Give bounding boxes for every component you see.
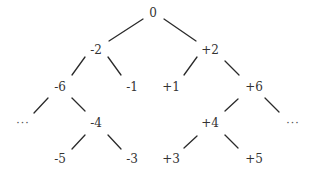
- tree-edge: [225, 99, 238, 111]
- tree-node: +1: [162, 81, 180, 93]
- tree-edge: [34, 98, 48, 113]
- tree-edge: [72, 57, 85, 75]
- tree-edge: [184, 57, 197, 75]
- tree-node: +3: [162, 153, 180, 165]
- tree-edges: [0, 0, 311, 174]
- tree-edge: [184, 136, 197, 148]
- tree-edge: [225, 135, 238, 148]
- tree-edge: [164, 19, 196, 41]
- tree-node: -3: [126, 153, 138, 165]
- tree-node: -2: [90, 44, 102, 56]
- tree-edge: [225, 61, 239, 75]
- tree-edge: [265, 98, 279, 112]
- tree-node: +4: [201, 117, 219, 129]
- tree-edge: [108, 135, 121, 149]
- tree-node: 0: [149, 7, 157, 19]
- tree-node: +6: [245, 81, 263, 93]
- tree-node: +5: [245, 153, 263, 165]
- tree-node: -1: [126, 81, 138, 93]
- ellipsis-node: ···: [286, 118, 300, 129]
- tree-node: -6: [54, 81, 66, 93]
- tree-node: -5: [54, 153, 66, 165]
- tree-edge: [108, 57, 121, 75]
- tree-node: +2: [201, 44, 219, 56]
- tree-edge: [109, 19, 143, 41]
- tree-node: -4: [90, 117, 102, 129]
- tree-edge: [72, 98, 85, 111]
- ellipsis-node: ···: [16, 118, 30, 129]
- tree-edge: [72, 135, 85, 149]
